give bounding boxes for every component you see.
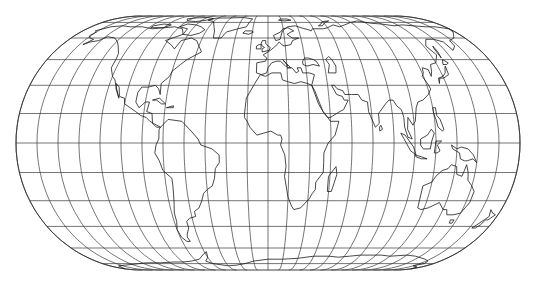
world-map bbox=[0, 0, 535, 284]
